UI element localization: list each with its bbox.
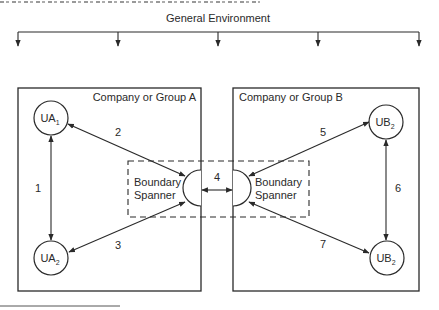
environment-label: General Environment	[166, 12, 270, 24]
link-7-arrow	[249, 202, 369, 253]
diagram-canvas: General Environment Company or Group A C…	[0, 0, 439, 310]
boundary-spanner-b-shape	[233, 170, 251, 206]
group-label-b: Company or Group B	[239, 91, 343, 103]
link-5-arrow	[249, 122, 369, 176]
link-2-arrow	[68, 124, 185, 176]
links: 1234567	[35, 122, 401, 253]
boundary-spanner-a-line2: Spanner	[134, 189, 176, 201]
group-label-a: Company or Group A	[93, 91, 197, 103]
link-4-label: 4	[214, 171, 220, 183]
boundary-spanner-a-shape	[183, 170, 201, 206]
link-3-arrow	[69, 202, 185, 252]
link-6-label: 6	[395, 182, 401, 194]
environment-arrows	[18, 32, 419, 46]
unit-ub2-bottom: UB2	[370, 241, 404, 275]
link-3-label: 3	[115, 239, 121, 251]
link-5-label: 5	[320, 126, 326, 138]
unit-ub2-top: UB2	[369, 105, 403, 139]
units: UA1UA2UB2UB2	[34, 101, 404, 275]
unit-ua1: UA1	[34, 101, 68, 135]
boundary-spanner-b: Boundary Spanner	[233, 170, 303, 206]
unit-ua2: UA2	[34, 241, 68, 275]
boundary-spanner-a-line1: Boundary	[134, 176, 182, 188]
link-2-label: 2	[115, 126, 121, 138]
link-7-label: 7	[320, 238, 326, 250]
link-1-label: 1	[35, 182, 41, 194]
boundary-spanner-b-line2: Spanner	[255, 189, 297, 201]
boundary-spanner-a: Boundary Spanner	[134, 170, 201, 206]
boundary-spanner-b-line1: Boundary	[255, 176, 303, 188]
general-environment: General Environment	[18, 12, 419, 46]
